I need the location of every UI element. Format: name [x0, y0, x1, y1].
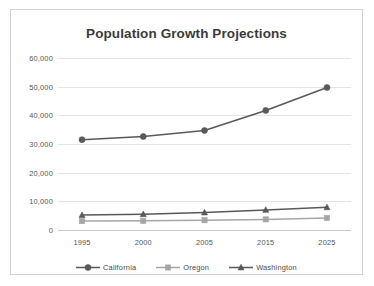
x-axis-tick-label: 2015 [257, 238, 274, 247]
data-point-marker [141, 218, 146, 223]
chart-container: Population Growth Projections 010,00020,… [10, 9, 363, 275]
data-point-marker [85, 265, 91, 271]
chart-title: Population Growth Projections [11, 26, 362, 41]
y-axis-tick-label: 0 [49, 226, 53, 235]
data-point-marker [140, 134, 146, 140]
y-axis-tick-label: 30,000 [29, 140, 53, 149]
y-axis-tick-label: 60,000 [29, 54, 53, 63]
legend-label: Washington [256, 263, 297, 272]
data-point-marker [79, 137, 85, 143]
x-axis-tick-label: 2000 [135, 238, 152, 247]
legend-item-oregon[interactable]: Oregon [156, 263, 209, 272]
y-axis-tick-label: 50,000 [29, 82, 53, 91]
triangle-marker-icon [229, 263, 253, 272]
y-axis-tick-label: 10,000 [29, 197, 53, 206]
data-point-marker [166, 265, 171, 270]
x-axis-tick-label: 2005 [196, 238, 213, 247]
y-axis-tick-label: 40,000 [29, 111, 53, 120]
chart-legend: CaliforniaOregonWashington [11, 263, 362, 272]
data-point-marker [79, 219, 84, 224]
legend-item-washington[interactable]: Washington [229, 263, 297, 272]
legend-label: Oregon [183, 263, 209, 272]
data-point-marker [202, 218, 207, 223]
square-marker-icon [156, 263, 180, 272]
x-axis-tick-label: 1995 [73, 238, 90, 247]
y-axis-tick-label: 20,000 [29, 168, 53, 177]
legend-item-california[interactable]: California [76, 263, 136, 272]
gridline [58, 230, 351, 231]
legend-label: California [103, 263, 136, 272]
data-point-marker [324, 85, 330, 91]
x-axis-tick-label: 2025 [318, 238, 335, 247]
data-point-marker [263, 217, 268, 222]
data-point-marker [202, 128, 208, 134]
circle-marker-icon [76, 263, 100, 272]
data-point-marker [263, 107, 269, 113]
series-lines [58, 58, 351, 230]
plot-area: 010,00020,00030,00040,00050,00060,000 19… [58, 58, 351, 230]
data-point-marker [324, 215, 329, 220]
